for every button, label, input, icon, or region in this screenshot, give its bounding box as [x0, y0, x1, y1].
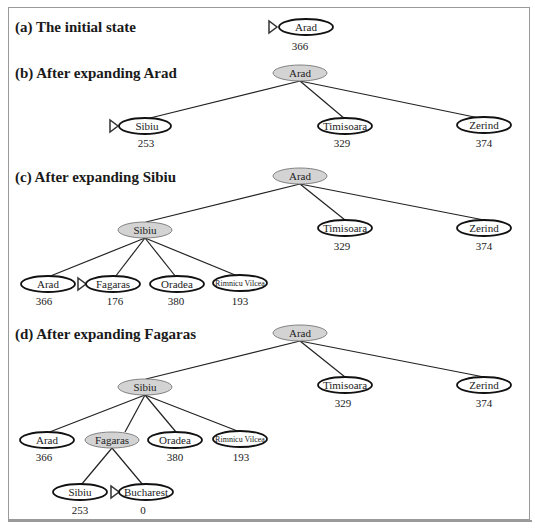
search-tree-diagram: (a) The initial state Arad 366 (b) After…	[0, 0, 535, 532]
node-value: 253	[138, 137, 155, 149]
node-label: Sibiu	[133, 224, 157, 236]
panel-title: (b) After expanding Arad	[15, 65, 177, 82]
node-label: Zerind	[469, 379, 499, 391]
node-value: 374	[476, 397, 493, 409]
node-label: Timisoara	[323, 379, 367, 391]
panel-d: (d) After expanding Fagaras Arad Sibiu T…	[15, 325, 511, 516]
node-zerind: Zerind 374	[457, 117, 511, 149]
node-label: Sibiu	[133, 381, 157, 393]
panel-title: (d) After expanding Fagaras	[15, 326, 196, 343]
node-label: Sibiu	[135, 120, 159, 132]
node-label: Zerind	[469, 222, 499, 234]
node-oradea: Oradea 380	[150, 276, 204, 307]
node-label: Arad	[36, 434, 58, 446]
node-sibiu-grandchild: Sibiu 253	[53, 484, 107, 516]
node-label: Arad	[289, 170, 311, 182]
node-label: Sibiu	[68, 486, 92, 498]
node-label: Timisoara	[323, 222, 367, 234]
panel-title: (c) After expanding Sibiu	[15, 169, 176, 186]
panel-b: (b) After expanding Arad Arad Sibiu 253 …	[15, 65, 511, 149]
node-rimnicu-vilcea: Rimnicu Vilcea 193	[213, 275, 267, 307]
node-label: Arad	[289, 67, 311, 79]
node-sibiu: Sibiu	[118, 379, 172, 395]
node-label: Arad	[37, 278, 59, 290]
node-value: 176	[107, 295, 124, 307]
node-value: 193	[232, 295, 249, 307]
node-arad-child: Arad 366	[21, 276, 75, 307]
node-value: 374	[476, 240, 493, 252]
node-timisoara: Timisoara 329	[318, 118, 372, 149]
node-value: 329	[334, 137, 351, 149]
node-label: Bucharest	[124, 486, 168, 498]
node-timisoara: Timisoara 329	[318, 377, 372, 409]
panel-a: (a) The initial state Arad 366	[15, 19, 333, 52]
node-oradea: Oradea 380	[148, 432, 202, 463]
node-value: 193	[233, 451, 250, 463]
panel-title: (a) The initial state	[15, 19, 136, 36]
node-arad: Arad 366	[279, 19, 333, 52]
node-rimnicu-vilcea: Rimnicu Vilcea 193	[213, 431, 267, 463]
next-node-marker-icon	[110, 120, 118, 132]
panel-c: (c) After expanding Sibiu Arad Sibiu Tim…	[15, 168, 511, 307]
node-fagaras: Fagaras 176	[86, 276, 140, 307]
node-value: 366	[292, 40, 309, 52]
next-node-marker-icon	[111, 486, 119, 498]
node-sibiu: Sibiu	[118, 222, 172, 238]
next-node-marker-icon	[78, 278, 86, 290]
node-zerind: Zerind 374	[457, 220, 511, 252]
node-label: Oradea	[159, 434, 191, 446]
node-label: Rimnicu Vilcea	[215, 435, 265, 444]
node-label: Oradea	[161, 278, 193, 290]
node-value: 380	[167, 451, 184, 463]
node-label: Fagaras	[96, 278, 130, 290]
node-bucharest: Bucharest 0	[119, 484, 173, 516]
node-timisoara: Timisoara 329	[318, 220, 372, 252]
node-value: 329	[335, 397, 352, 409]
node-zerind: Zerind 374	[457, 377, 511, 409]
node-label: Rimnicu Vilcea	[215, 279, 265, 288]
node-arad: Arad	[273, 325, 327, 341]
node-label: Zerind	[469, 119, 499, 131]
next-node-marker-icon	[269, 21, 277, 33]
node-value: 253	[72, 504, 89, 516]
node-value: 380	[168, 295, 185, 307]
node-value: 374	[476, 137, 493, 149]
node-label: Arad	[295, 21, 317, 33]
node-label: Timisoara	[323, 120, 367, 132]
node-arad-child: Arad 366	[20, 432, 74, 463]
node-value: 329	[334, 240, 351, 252]
node-arad: Arad	[273, 65, 327, 81]
node-label: Fagaras	[95, 434, 129, 446]
node-fagaras: Fagaras	[85, 432, 139, 448]
node-arad: Arad	[273, 168, 327, 184]
node-value: 366	[36, 295, 53, 307]
node-sibiu: Sibiu 253	[119, 118, 171, 149]
node-value: 0	[140, 504, 146, 516]
node-label: Arad	[289, 327, 311, 339]
node-value: 366	[36, 451, 53, 463]
